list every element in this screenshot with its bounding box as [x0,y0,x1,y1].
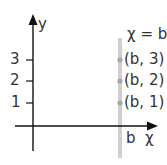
vertical-line-x-equals-b [118,38,122,158]
point-label-b-2: (b, 2) [124,73,164,88]
point-label-b-3: (b, 3) [124,52,164,67]
y-tick-label-3: 3 [10,52,20,67]
point-b-3 [117,57,122,62]
x-intercept-label-b: b [126,131,136,146]
y-tick-label-1: 1 [11,95,21,110]
x-axis-label: χ [145,131,154,146]
y-axis-label: y [38,17,47,32]
y-tick-label-2: 2 [10,73,20,88]
y-axis-arrow-icon [29,14,38,25]
point-b-2 [117,78,122,83]
point-b-1 [117,100,122,105]
line-equation-label: χ = b [127,27,167,42]
point-label-b-1: (b, 1) [124,95,164,110]
